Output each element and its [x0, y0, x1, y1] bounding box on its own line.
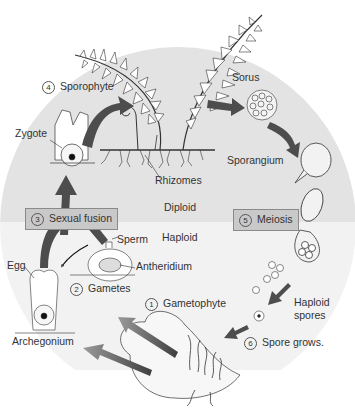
- zygote-label: Zygote: [15, 128, 47, 139]
- archegonium-label: Archegonium: [12, 336, 74, 347]
- step-4-number-icon: 4: [42, 81, 55, 94]
- egg-label: Egg: [7, 260, 26, 271]
- step-2-gametes-label: 2Gametes: [70, 283, 131, 296]
- step-5-meiosis-box: 5Meiosis: [233, 209, 299, 231]
- diploid-zone: [0, 40, 355, 222]
- antheridium-label: Antheridium: [136, 261, 192, 272]
- sorus-illustration: [247, 90, 277, 120]
- haploid-spores-label: Haploidspores: [294, 296, 344, 322]
- step-1-number-icon: 1: [145, 298, 158, 311]
- step-4-sporophyte-label: 4Sporophyte: [42, 81, 114, 94]
- sporangium-label: Sporangium: [227, 155, 284, 166]
- step-1-gametophyte-label: 1Gametophyte: [145, 298, 226, 311]
- step-5-number-icon: 5: [239, 214, 252, 227]
- step-6-spore-grows-label: 6Spore grows.: [244, 337, 324, 350]
- sperm-label: Sperm: [117, 234, 148, 245]
- step-3-sexual-fusion-box: 3Sexual fusion: [25, 208, 118, 230]
- sorus-label: Sorus: [232, 72, 259, 83]
- diploid-zone-label: Diploid: [164, 202, 196, 213]
- step-2-number-icon: 2: [70, 283, 83, 296]
- step-6-number-icon: 6: [244, 337, 257, 350]
- haploid-zone-label: Haploid: [162, 232, 198, 243]
- step-3-number-icon: 3: [31, 213, 44, 226]
- rhizomes-label: Rhizomes: [155, 175, 202, 186]
